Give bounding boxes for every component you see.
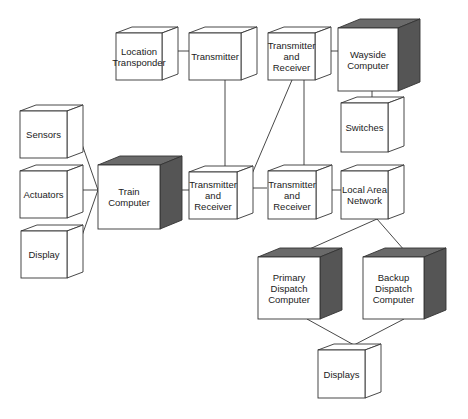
node-side-face xyxy=(398,19,420,91)
node-sensors[interactable] xyxy=(20,105,83,158)
node-front-face xyxy=(98,165,160,229)
node-location_transponder[interactable] xyxy=(116,27,178,80)
nodes-layer xyxy=(20,19,446,398)
node-front-face xyxy=(341,171,388,219)
node-side-face xyxy=(365,344,381,398)
link-primary_dispatch-to-displays xyxy=(307,319,354,345)
node-side-face xyxy=(388,97,404,152)
node-front-face xyxy=(363,257,424,319)
node-side-face xyxy=(315,27,331,80)
node-front-face xyxy=(341,103,388,152)
node-switches[interactable] xyxy=(341,97,404,152)
node-front-face xyxy=(268,33,315,80)
node-side-face xyxy=(316,165,332,219)
node-front-face xyxy=(258,257,320,319)
deployment-diagram xyxy=(0,0,468,419)
link-lan-to-primary_dispatch xyxy=(305,219,377,251)
node-backup_dispatch[interactable] xyxy=(363,248,446,319)
node-side-face xyxy=(241,27,257,80)
node-front-face xyxy=(189,33,241,80)
node-side-face xyxy=(160,156,182,229)
node-front-face xyxy=(20,111,67,158)
node-front-face xyxy=(20,171,67,218)
node-side-face xyxy=(424,248,446,319)
node-displays[interactable] xyxy=(318,344,381,398)
node-side-face xyxy=(162,27,178,80)
node-side-face xyxy=(67,105,83,158)
node-tr_right[interactable] xyxy=(268,165,332,219)
node-display[interactable] xyxy=(21,225,83,278)
node-primary_dispatch[interactable] xyxy=(258,248,342,319)
node-transmitter_top[interactable] xyxy=(189,27,257,80)
node-side-face xyxy=(67,165,83,218)
node-front-face xyxy=(189,172,237,219)
node-front-face xyxy=(21,231,67,278)
node-front-face xyxy=(318,350,365,398)
node-wayside_computer[interactable] xyxy=(338,19,420,91)
node-front-face xyxy=(268,171,316,219)
node-actuators[interactable] xyxy=(20,165,83,218)
node-lan[interactable] xyxy=(341,165,404,219)
node-side-face xyxy=(320,248,342,319)
node-front-face xyxy=(116,33,162,80)
node-train_computer[interactable] xyxy=(98,156,182,229)
link-lan-to-backup_dispatch xyxy=(377,219,405,251)
node-side-face xyxy=(237,166,253,219)
node-front-face xyxy=(338,28,398,91)
node-tr_middle[interactable] xyxy=(189,166,253,219)
node-side-face xyxy=(67,225,83,278)
link-backup_dispatch-to-displays xyxy=(354,319,404,345)
node-side-face xyxy=(388,165,404,219)
node-tr_top_right[interactable] xyxy=(268,27,331,80)
